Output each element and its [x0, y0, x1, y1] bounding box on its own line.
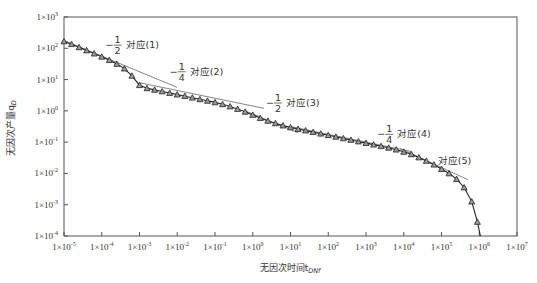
svg-text:1×10-1: 1×10-1: [34, 136, 58, 147]
x-axis-ticks: 1×10-51×10-41×10-31×10-21×10-11×1001×101…: [52, 232, 528, 252]
svg-text:−: −: [266, 97, 274, 108]
svg-text:−: −: [377, 128, 385, 139]
svg-text:对应(1): 对应(1): [126, 39, 159, 50]
annotations: −12对应(1)−14对应(2)−12对应(3)−14对应(4)对应(5): [106, 34, 472, 166]
svg-text:1×10-4: 1×10-4: [90, 241, 114, 252]
svg-text:1: 1: [275, 92, 281, 103]
svg-text:1×10-3: 1×10-3: [128, 241, 152, 252]
svg-text:1×107: 1×107: [506, 241, 528, 252]
svg-text:对应(2): 对应(2): [190, 66, 223, 77]
svg-text:1×101: 1×101: [280, 241, 302, 252]
svg-text:1: 1: [386, 123, 392, 134]
y-axis-label: 无因次产量qD: [5, 100, 18, 156]
svg-text:无因次产量qD: 无因次产量qD: [5, 100, 18, 156]
svg-text:1×100: 1×100: [36, 105, 58, 116]
svg-text:1×10-5: 1×10-5: [52, 241, 76, 252]
svg-text:1: 1: [115, 34, 121, 45]
x-axis-label: 无因次时间tDNf: [260, 262, 322, 275]
svg-text:1×100: 1×100: [242, 241, 264, 252]
svg-text:1×102: 1×102: [36, 42, 58, 53]
svg-text:1: 1: [179, 61, 185, 72]
svg-text:1×10-1: 1×10-1: [203, 241, 227, 252]
svg-text:对应(4): 对应(4): [397, 128, 430, 139]
chart: 1×10-51×10-41×10-31×10-21×10-11×1001×101…: [0, 0, 537, 283]
svg-text:1×103: 1×103: [36, 11, 58, 22]
svg-text:1×106: 1×106: [468, 241, 490, 252]
svg-text:−: −: [106, 39, 114, 50]
svg-text:对应(3): 对应(3): [286, 97, 319, 108]
svg-text:1×101: 1×101: [36, 74, 58, 85]
svg-text:对应(5): 对应(5): [438, 155, 471, 166]
y-axis-ticks: 1×1031×1021×1011×1001×10-11×10-21×10-31×…: [34, 11, 68, 241]
svg-text:4: 4: [386, 134, 392, 145]
svg-text:1×103: 1×103: [355, 241, 377, 252]
svg-text:−: −: [170, 66, 178, 77]
reference-lines: [64, 40, 468, 179]
svg-text:1×105: 1×105: [431, 241, 453, 252]
svg-text:1×10-3: 1×10-3: [34, 199, 58, 210]
svg-text:1×10-4: 1×10-4: [34, 230, 58, 241]
svg-text:4: 4: [179, 72, 185, 83]
svg-text:1×104: 1×104: [393, 241, 415, 252]
svg-text:2: 2: [115, 45, 121, 56]
svg-text:1×10-2: 1×10-2: [165, 241, 189, 252]
svg-text:1×10-2: 1×10-2: [34, 167, 58, 178]
svg-text:1×102: 1×102: [317, 241, 339, 252]
svg-text:2: 2: [275, 103, 281, 114]
